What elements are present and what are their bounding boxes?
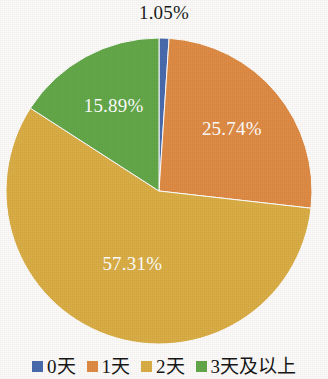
pie-slice-label: 25.74% — [202, 118, 262, 139]
legend-swatch-icon — [32, 361, 43, 372]
pie-slice-label: 57.31% — [102, 253, 162, 274]
legend-item[interactable]: 3天及以上 — [196, 356, 297, 377]
legend-item-label: 0天 — [47, 356, 76, 377]
legend-swatch-icon — [87, 361, 98, 372]
pie-slice-label: 15.89% — [84, 95, 144, 116]
legend-swatch-icon — [196, 361, 207, 372]
legend-item-label: 2天 — [156, 356, 185, 377]
pie-chart-figure: 1.05% 25.74%57.31%15.89% 0天1天2天3天及以上 — [0, 0, 328, 379]
legend-item[interactable]: 1天 — [87, 356, 131, 377]
pie-graphic: 25.74%57.31%15.89% — [0, 18, 328, 354]
legend-item[interactable]: 0天 — [32, 356, 76, 377]
legend-item-label: 1天 — [102, 356, 131, 377]
legend-swatch-icon — [141, 361, 152, 372]
legend-item-label: 3天及以上 — [211, 356, 297, 377]
legend-item[interactable]: 2天 — [141, 356, 185, 377]
chart-legend: 0天1天2天3天及以上 — [0, 354, 328, 379]
pie-slices — [6, 38, 312, 344]
